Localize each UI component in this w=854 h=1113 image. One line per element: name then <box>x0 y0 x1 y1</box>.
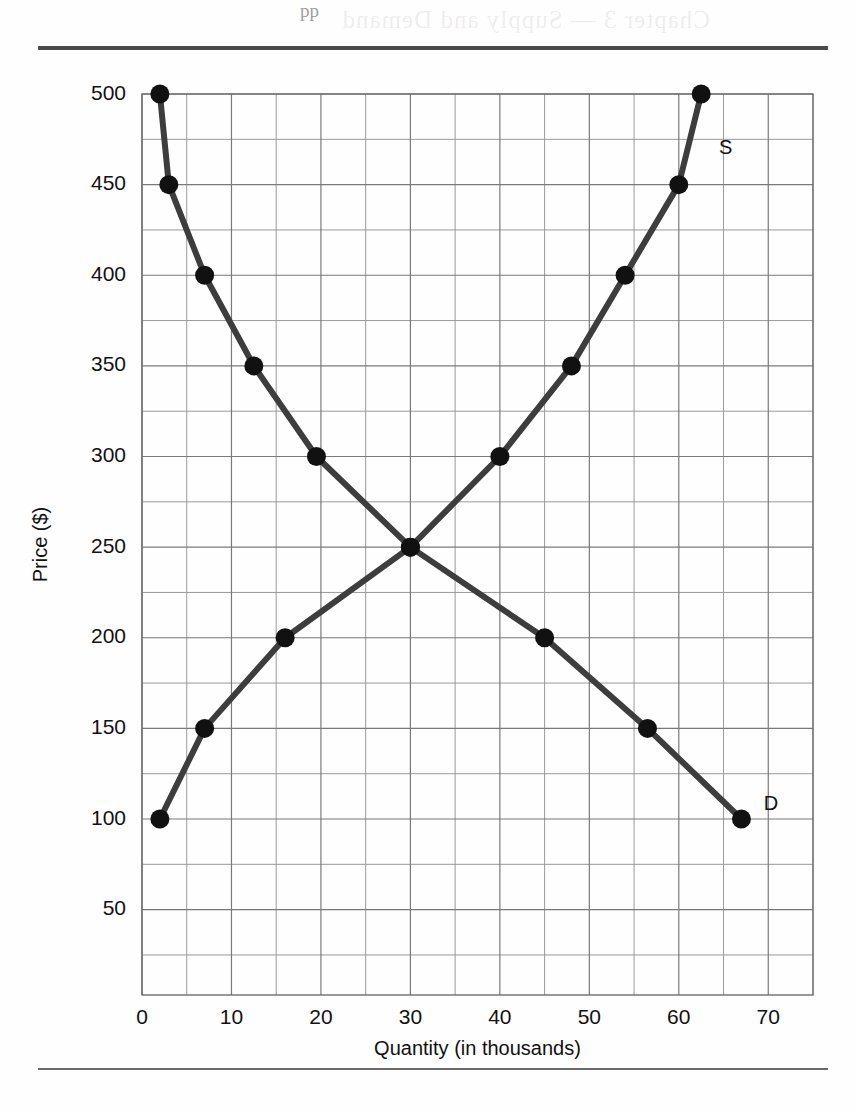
data-point-s-7 <box>669 175 688 194</box>
data-point-s-1 <box>195 719 214 738</box>
y-axis-title: Price ($) <box>29 507 51 583</box>
data-point-d-7 <box>638 719 657 738</box>
y-tick-label-400: 400 <box>91 262 126 285</box>
series-label-s: S <box>719 136 732 158</box>
y-tick-label-500: 500 <box>91 81 126 104</box>
figure-root: Chapter 3 — Supply and Demand pp 5010015… <box>0 0 854 1113</box>
data-point-d-6 <box>535 628 554 647</box>
x-tick-label-70: 70 <box>757 1005 780 1028</box>
x-tick-label-0: 0 <box>136 1005 148 1028</box>
data-point-d-4 <box>307 447 326 466</box>
plot-frame <box>142 94 813 995</box>
grid-minor-lines <box>142 94 813 995</box>
y-tick-label-150: 150 <box>91 715 126 738</box>
data-point-s-8 <box>692 85 711 104</box>
x-axis-title: Quantity (in thousands) <box>374 1037 581 1059</box>
y-tick-label-250: 250 <box>91 534 126 557</box>
data-point-d-3 <box>244 356 263 375</box>
data-point-s-2 <box>276 628 295 647</box>
data-point-d-2 <box>195 266 214 285</box>
data-point-d-0 <box>150 85 169 104</box>
chart-svg: 50100150200250300350400450500 0102030405… <box>0 0 854 1113</box>
y-tick-label-50: 50 <box>103 896 126 919</box>
data-point-d-8 <box>732 810 751 829</box>
y-axis-tick-labels: 50100150200250300350400450500 <box>91 81 126 920</box>
x-tick-label-10: 10 <box>220 1005 243 1028</box>
series-labels: DS <box>719 136 778 814</box>
data-point-s-5 <box>562 356 581 375</box>
supply-demand-chart: 50100150200250300350400450500 0102030405… <box>0 0 854 1113</box>
x-tick-label-60: 60 <box>667 1005 690 1028</box>
y-tick-label-300: 300 <box>91 443 126 466</box>
grid-major-lines <box>142 94 813 995</box>
data-point-s-4 <box>490 447 509 466</box>
y-tick-label-200: 200 <box>91 624 126 647</box>
data-point-s-3 <box>401 538 420 557</box>
x-tick-label-20: 20 <box>309 1005 332 1028</box>
data-point-d-1 <box>159 175 178 194</box>
series-label-d: D <box>764 792 778 814</box>
x-tick-label-30: 30 <box>399 1005 422 1028</box>
y-tick-label-350: 350 <box>91 352 126 375</box>
y-tick-label-100: 100 <box>91 806 126 829</box>
x-tick-label-50: 50 <box>578 1005 601 1028</box>
y-tick-label-450: 450 <box>91 171 126 194</box>
data-point-s-0 <box>150 810 169 829</box>
x-tick-label-40: 40 <box>488 1005 511 1028</box>
x-axis-tick-labels: 010203040506070 <box>136 1005 780 1028</box>
data-point-s-6 <box>616 266 635 285</box>
